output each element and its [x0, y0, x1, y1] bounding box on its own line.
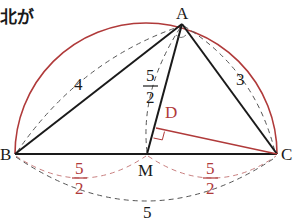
point-label-a: A	[176, 4, 189, 23]
length-label-bm-denominator: 2	[75, 179, 84, 198]
length-label-mc-numerator: 5	[206, 159, 215, 178]
length-label-mc-denominator: 2	[206, 179, 215, 198]
segment-ac	[182, 24, 277, 154]
segment-cd	[156, 128, 277, 154]
right-angle-marker	[154, 132, 165, 140]
point-label-d: D	[165, 103, 177, 122]
point-label-c: C	[281, 145, 292, 164]
length-label-bc: 5	[143, 203, 152, 222]
length-label-ac: 3	[236, 70, 245, 89]
point-label-m: M	[138, 161, 153, 180]
length-label-am-denominator: 2	[146, 88, 155, 107]
length-label-am-numerator: 5	[146, 66, 155, 85]
triangle-diagram: A B C M D 4 3 5 2 5 2 5 2 5	[0, 0, 299, 224]
point-label-b: B	[0, 145, 11, 164]
length-label-ab: 4	[74, 75, 83, 94]
segment-ab	[15, 24, 182, 154]
length-label-bm-numerator: 5	[75, 159, 84, 178]
